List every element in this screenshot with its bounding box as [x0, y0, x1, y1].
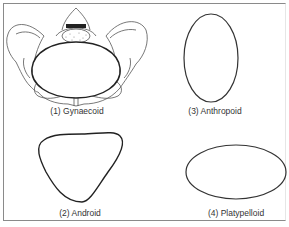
- android-inlet-outline: [39, 133, 123, 202]
- anthropoid-inlet-outline: [184, 14, 238, 102]
- label-platypelloid: (4) Platypelloid: [208, 208, 264, 218]
- platypelloid-inlet-outline: [186, 145, 286, 199]
- gynaecoid-inlet-outline: [32, 42, 120, 98]
- sacrum-stipple: [66, 33, 87, 41]
- label-android: (2) Android: [59, 208, 101, 218]
- label-anthropoid: (3) Anthropoid: [188, 106, 241, 116]
- sacral-promontory: [66, 24, 86, 28]
- label-gynaecoid: (1) Gynaecoid: [50, 106, 103, 116]
- pelvis-diagram: [0, 0, 289, 227]
